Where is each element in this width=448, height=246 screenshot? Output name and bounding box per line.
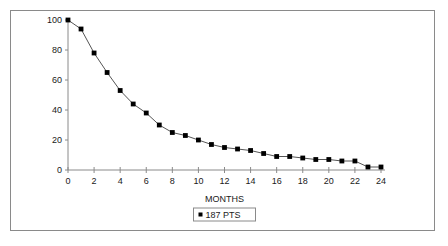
data-point-marker	[274, 154, 279, 159]
y-tick-label: 40	[52, 105, 62, 115]
data-point-marker	[105, 70, 110, 75]
data-point-marker	[157, 123, 162, 128]
line-chart: 020406080100024681012141618202224MONTHS1…	[0, 0, 448, 246]
x-tick-label: 14	[246, 176, 256, 186]
data-point-marker	[326, 157, 331, 162]
x-tick-label: 0	[65, 176, 70, 186]
data-point-marker	[222, 145, 227, 150]
x-tick-label: 22	[350, 176, 360, 186]
data-point-marker	[118, 88, 123, 93]
x-tick-label: 2	[92, 176, 97, 186]
data-point-marker	[235, 147, 240, 152]
data-point-marker	[248, 148, 253, 153]
x-tick-label: 8	[170, 176, 175, 186]
data-point-marker	[183, 133, 188, 138]
x-tick-label: 16	[272, 176, 282, 186]
y-tick-label: 60	[52, 75, 62, 85]
x-axis-title: MONTHS	[205, 194, 244, 204]
data-point-marker	[131, 102, 136, 107]
data-point-marker	[366, 165, 371, 170]
x-tick-label: 12	[219, 176, 229, 186]
data-point-marker	[261, 151, 266, 156]
y-tick-label: 0	[57, 165, 62, 175]
data-point-marker	[92, 51, 97, 56]
x-tick-label: 18	[298, 176, 308, 186]
data-point-marker	[144, 111, 149, 116]
x-tick-label: 6	[144, 176, 149, 186]
y-tick-label: 80	[52, 45, 62, 55]
x-tick-label: 4	[118, 176, 123, 186]
data-point-marker	[300, 156, 305, 161]
data-point-marker	[209, 142, 214, 147]
data-point-marker	[287, 154, 292, 159]
data-point-marker	[196, 138, 201, 143]
data-point-marker	[313, 157, 318, 162]
y-axis-ticks: 020406080100	[47, 15, 68, 175]
data-point-marker	[339, 159, 344, 164]
data-point-marker	[170, 130, 175, 135]
series-line	[68, 20, 381, 167]
data-point-marker	[66, 18, 71, 23]
y-tick-label: 100	[47, 15, 62, 25]
chart-legend: 187 PTS	[194, 208, 256, 221]
data-point-marker	[379, 165, 384, 170]
chart-figure: 020406080100024681012141618202224MONTHS1…	[0, 0, 448, 246]
legend-label: 187 PTS	[206, 210, 241, 220]
data-point-marker	[79, 27, 84, 32]
x-tick-label: 10	[193, 176, 203, 186]
legend-square-marker-icon	[199, 213, 203, 217]
data-point-marker	[353, 159, 358, 164]
data-series-187-pts	[66, 18, 384, 170]
x-tick-label: 24	[376, 176, 386, 186]
x-tick-label: 20	[324, 176, 334, 186]
y-tick-label: 20	[52, 135, 62, 145]
